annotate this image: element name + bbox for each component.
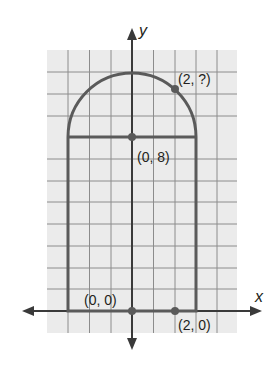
x-axis-left-arrow-icon (22, 306, 34, 316)
y-axis-label: y (138, 22, 148, 39)
point-2-0 (171, 307, 179, 315)
label-point-origin: (0, 0) (84, 292, 117, 308)
grid-background (47, 50, 237, 333)
y-axis-up-arrow-icon (127, 28, 137, 40)
label-point-0-8: (0, 8) (137, 149, 170, 165)
label-point-2-unknown: (2, ?) (178, 71, 211, 87)
coordinate-figure: y x (2, ?) (0, 8) (0, 0) (2, 0) (0, 0, 280, 385)
point-0-8 (128, 133, 136, 141)
y-axis-down-arrow-icon (127, 338, 137, 350)
label-point-2-0: (2, 0) (178, 317, 211, 333)
point-origin (128, 307, 136, 315)
x-axis-right-arrow-icon (250, 306, 262, 316)
x-axis-label: x (254, 288, 264, 305)
